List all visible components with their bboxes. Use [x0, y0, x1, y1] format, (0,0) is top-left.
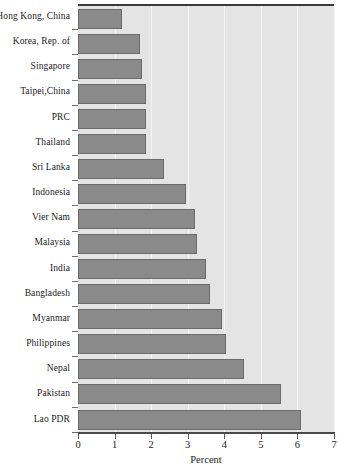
bar-row	[78, 31, 334, 56]
category-label: Philippines	[0, 331, 74, 356]
x-axis-tick-label: 5	[258, 440, 263, 451]
bar-row	[78, 332, 334, 357]
category-label: Thailand	[0, 130, 74, 155]
bar	[78, 259, 206, 279]
bar	[78, 309, 222, 329]
x-axis-tick-label: 4	[222, 440, 227, 451]
x-axis-tick-labels: 01234567	[78, 440, 334, 454]
bar	[78, 384, 281, 404]
x-axis-tick-label: 0	[75, 440, 80, 451]
bar	[78, 234, 197, 254]
bar	[78, 284, 210, 304]
bar-row	[78, 156, 334, 181]
bar	[78, 134, 146, 154]
x-axis-tick-label: 1	[112, 440, 117, 451]
category-label: Korea, Rep. of	[0, 29, 74, 54]
bar-row	[78, 357, 334, 382]
category-label: Malaysia	[0, 231, 74, 256]
bar	[78, 34, 140, 54]
bar-row	[78, 56, 334, 81]
category-label: PRC	[0, 105, 74, 130]
category-label: Vier Nam	[0, 205, 74, 230]
category-label: Taipei,China	[0, 80, 74, 105]
bar	[78, 109, 146, 129]
bar	[78, 359, 244, 379]
category-label: Nepal	[0, 356, 74, 381]
bar-row	[78, 282, 334, 307]
bar-row	[78, 81, 334, 106]
category-label: Myanmar	[0, 306, 74, 331]
x-axis-tick-label: 6	[295, 440, 300, 451]
bar-row	[78, 181, 334, 206]
x-axis-tick-label: 7	[331, 440, 336, 451]
bar-row	[78, 131, 334, 156]
gridline	[334, 6, 335, 432]
category-label: Sri Lanka	[0, 155, 74, 180]
bar	[78, 84, 146, 104]
bar-row	[78, 207, 334, 232]
category-label: India	[0, 256, 74, 281]
bars-layer	[78, 6, 334, 432]
plot-area	[78, 4, 334, 432]
category-label: Pakistan	[0, 382, 74, 407]
category-label: Hong Kong, China	[0, 4, 74, 29]
category-label: Bangladesh	[0, 281, 74, 306]
bar-row	[78, 257, 334, 282]
bar-row	[78, 382, 334, 407]
x-axis-tick-label: 3	[185, 440, 190, 451]
bar	[78, 59, 142, 79]
bar-chart: Hong Kong, ChinaKorea, Rep. ofSingaporeT…	[0, 0, 338, 473]
bar	[78, 410, 301, 430]
bar-row	[78, 407, 334, 432]
category-label: Lao PDR	[0, 407, 74, 432]
bar	[78, 159, 164, 179]
bar	[78, 9, 122, 29]
bar	[78, 334, 226, 354]
bar-row	[78, 6, 334, 31]
bar	[78, 184, 186, 204]
bar-row	[78, 307, 334, 332]
x-axis-tick-label: 2	[149, 440, 154, 451]
category-label: Singapore	[0, 54, 74, 79]
bar-row	[78, 106, 334, 131]
category-label: Indonesia	[0, 180, 74, 205]
x-axis-title: Percent	[78, 455, 334, 466]
bar-row	[78, 232, 334, 257]
bar	[78, 209, 195, 229]
category-axis: Hong Kong, ChinaKorea, Rep. ofSingaporeT…	[0, 4, 74, 432]
